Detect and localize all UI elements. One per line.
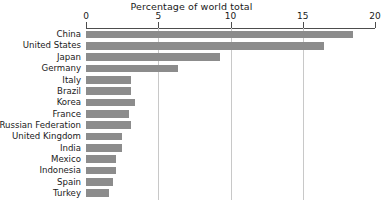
bar	[86, 133, 122, 141]
bar	[86, 144, 122, 152]
bar-row: France	[0, 110, 383, 118]
x-tick-mark	[86, 22, 87, 28]
bar-row: Indonesia	[0, 167, 383, 175]
x-tick-label: 20	[369, 11, 380, 21]
category-label: China	[0, 30, 81, 39]
bar-row: China	[0, 31, 383, 39]
bar	[86, 121, 131, 129]
bar-row: Japan	[0, 53, 383, 61]
bar	[86, 65, 178, 73]
category-label: Mexico	[0, 155, 81, 164]
bar-row: India	[0, 144, 383, 152]
category-label: Brazil	[0, 87, 81, 96]
category-label: Japan	[0, 53, 81, 62]
bar	[86, 87, 131, 95]
category-label: India	[0, 144, 81, 153]
chart-title: Percentage of world total	[0, 1, 383, 12]
bar-row: Germany	[0, 65, 383, 73]
x-tick-label: 5	[155, 11, 161, 21]
category-label: United States	[0, 41, 81, 50]
bar-row: Korea	[0, 99, 383, 107]
bar	[86, 99, 135, 107]
bar-row: Brazil	[0, 87, 383, 95]
bar	[86, 53, 220, 61]
category-label: Russian Federation	[0, 121, 81, 130]
category-label: Germany	[0, 64, 81, 73]
bar	[86, 167, 116, 175]
category-label: France	[0, 110, 81, 119]
bar	[86, 155, 116, 163]
bar-row: United States	[0, 42, 383, 50]
category-label: Turkey	[0, 189, 81, 198]
bar-row: Russian Federation	[0, 121, 383, 129]
bar	[86, 178, 113, 186]
bar-row: Turkey	[0, 189, 383, 197]
bar	[86, 42, 324, 50]
category-label: Spain	[0, 178, 81, 187]
x-tick-label: 0	[83, 11, 89, 21]
bar	[86, 31, 353, 39]
category-label: Italy	[0, 76, 81, 85]
category-label: Korea	[0, 98, 81, 107]
x-tick-label: 15	[297, 11, 308, 21]
x-tick-mark	[375, 22, 376, 28]
bar	[86, 76, 131, 84]
bar	[86, 110, 129, 118]
bar	[86, 189, 109, 197]
x-tick-label: 10	[225, 11, 236, 21]
category-label: United Kingdom	[0, 132, 81, 141]
bar-row: United Kingdom	[0, 133, 383, 141]
category-label: Indonesia	[0, 166, 81, 175]
bar-row: Mexico	[0, 155, 383, 163]
bar-row: Spain	[0, 178, 383, 186]
bar-chart: Percentage of world total 05101520 China…	[0, 0, 383, 200]
bar-row: Italy	[0, 76, 383, 84]
